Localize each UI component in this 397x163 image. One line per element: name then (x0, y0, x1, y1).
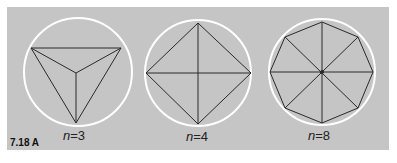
diagram-n8 (269, 19, 375, 125)
diagram-n3 (24, 18, 132, 126)
label-n4: n=4 (186, 129, 208, 144)
label-n8: n=8 (308, 128, 330, 143)
figure-id-label: 7.18 A (10, 137, 39, 148)
diagram-n4 (145, 20, 251, 126)
label-n3: n=3 (63, 128, 85, 143)
